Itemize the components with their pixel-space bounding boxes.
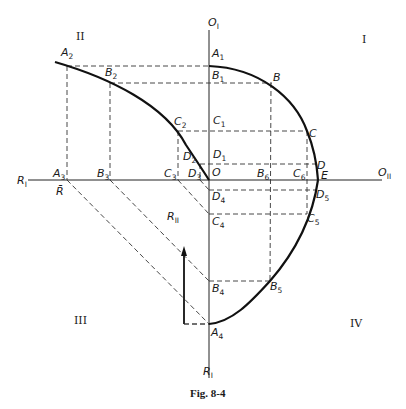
label-b6: B6 — [257, 167, 270, 182]
label-b3: B3 — [97, 167, 110, 182]
label-e: E — [321, 169, 328, 182]
axis-label-r1-bottom: RI — [203, 365, 213, 380]
label-a4: A4 — [210, 326, 224, 341]
label-b2: B2 — [105, 66, 118, 81]
label-d2: D2 — [183, 150, 196, 165]
quadrant-i-label: I — [362, 33, 366, 46]
label-c2: C2 — [174, 115, 187, 130]
curve-quadrant-iv — [209, 180, 318, 324]
label-c5: C5 — [307, 212, 320, 227]
label-a3: A3 — [52, 167, 66, 182]
dash-c3-c4 — [178, 180, 209, 214]
label-c6: C6 — [293, 167, 306, 182]
quadrant-iii-label: III — [74, 314, 87, 327]
label-c4: C4 — [212, 215, 225, 230]
origin-label: O — [212, 166, 221, 179]
quadrant-iv-label: IV — [350, 317, 363, 330]
label-b5: B5 — [270, 280, 283, 295]
label-d3: D3 — [188, 167, 201, 182]
label-d1: D1 — [213, 148, 226, 163]
label-c1: C1 — [213, 114, 226, 129]
axis-label-r1-left: RI — [17, 174, 27, 189]
label-a1: A1 — [211, 47, 225, 62]
axis-label-o1: OI — [208, 16, 219, 31]
label-b: B — [273, 71, 281, 84]
edgeworth-box-diagram: II I III IV OI OII RI RI RII O R̄ A1 B1 … — [0, 0, 406, 409]
label-d4: D4 — [212, 190, 225, 205]
label-b1: B1 — [212, 69, 225, 84]
quadrant-ii-label: II — [76, 30, 85, 43]
label-d5: D5 — [316, 188, 329, 203]
label-c: C — [309, 127, 317, 140]
dash-b3-b4 — [110, 180, 209, 281]
label-b4: B4 — [212, 282, 225, 297]
axis-label-r2: RII — [167, 210, 179, 225]
label-a2: A2 — [60, 46, 74, 61]
arrow-head-icon — [181, 246, 187, 256]
dash-a3-a4 — [67, 180, 209, 324]
axis-label-o2: OII — [378, 166, 391, 181]
label-c3: C3 — [164, 167, 177, 182]
dash-d3-d4 — [200, 180, 209, 190]
dash-b-b5 — [270, 83, 271, 281]
figure-caption: Fig. 8-4 — [190, 387, 226, 399]
r-bar-label: R̄ — [56, 185, 64, 198]
